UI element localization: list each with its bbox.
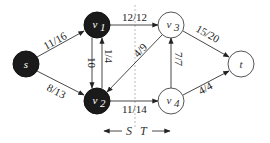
edge-label-v2-v1: 1/4 — [103, 49, 115, 64]
edge-label-v4-t: 4/4 — [196, 79, 215, 97]
cut-label-s: S — [126, 124, 132, 138]
edge-labels: 11/16 8/13 10 1/4 12/12 4/9 11/14 7/7 15… — [41, 11, 222, 115]
flow-network-diagram: 11/16 8/13 10 1/4 12/12 4/9 11/14 7/7 15… — [0, 0, 270, 143]
svg-text:4: 4 — [174, 97, 180, 109]
edge-v3-v2 — [107, 35, 162, 92]
svg-text:v: v — [93, 18, 98, 30]
svg-text:v: v — [167, 18, 172, 30]
edge-label-v3-v2: 4/9 — [131, 41, 150, 60]
edge-label-s-v2: 8/13 — [45, 81, 68, 101]
edge-label-s-v1: 11/16 — [41, 29, 69, 52]
node-v3: v 3 — [158, 12, 184, 38]
svg-text:2: 2 — [100, 97, 106, 109]
edge-label-v1-v3: 12/12 — [122, 11, 147, 23]
svg-text:1: 1 — [100, 21, 106, 33]
node-v1: v 1 — [84, 12, 110, 38]
node-t: t — [228, 51, 254, 77]
svg-text:3: 3 — [173, 21, 180, 33]
node-v4: v 4 — [158, 88, 184, 114]
cut-label-t: T — [140, 124, 148, 138]
svg-text:s: s — [24, 58, 28, 70]
nodes: s v 1 v 2 v 3 v 4 t — [13, 12, 254, 114]
edge-label-v4-v3: 7/7 — [173, 52, 185, 67]
edge-label-v1-v2: 10 — [86, 57, 98, 69]
cut-legend: S T — [104, 124, 170, 138]
svg-text:v: v — [93, 94, 98, 106]
edge-label-v3-t: 15/20 — [194, 22, 222, 45]
svg-text:v: v — [167, 94, 172, 106]
edge-label-v2-v4: 11/14 — [122, 103, 147, 115]
node-v2: v 2 — [84, 88, 110, 114]
node-s: s — [13, 51, 39, 77]
